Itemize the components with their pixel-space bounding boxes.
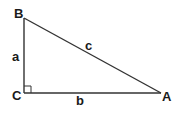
- right-angle-marker-icon: [24, 86, 31, 93]
- side-b-label: b: [76, 93, 84, 108]
- vertex-b-label: B: [14, 6, 23, 21]
- triangle-svg: B C A a b c: [0, 0, 177, 115]
- side-a-label: a: [12, 49, 20, 64]
- side-c-line: [24, 18, 161, 93]
- vertex-a-label: A: [162, 89, 172, 104]
- triangle-diagram: B C A a b c: [0, 0, 177, 115]
- vertex-c-label: C: [12, 88, 22, 103]
- side-c-label: c: [85, 38, 92, 53]
